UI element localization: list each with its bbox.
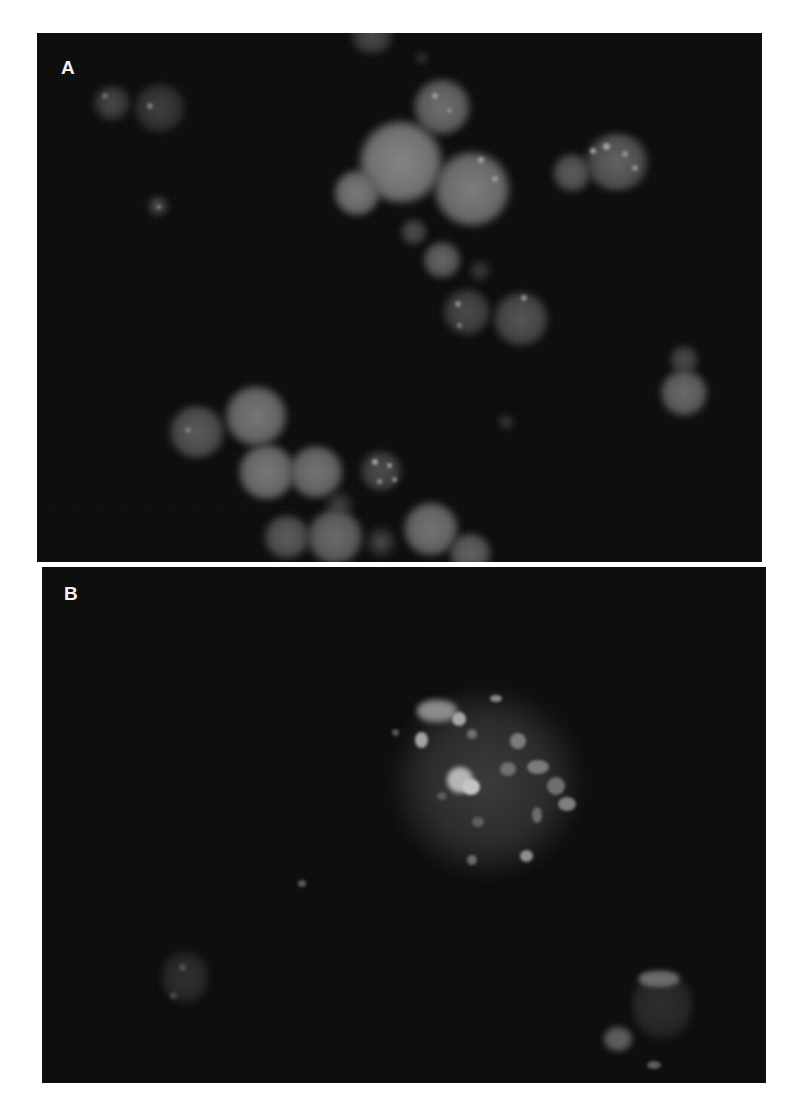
small-focus xyxy=(298,880,306,887)
cell xyxy=(432,150,512,228)
cell xyxy=(467,259,493,283)
bright-focus xyxy=(452,712,466,726)
cell xyxy=(400,219,428,245)
bright-focus xyxy=(603,143,610,150)
bright-focus xyxy=(392,729,399,736)
bright-focus xyxy=(510,733,526,749)
cell xyxy=(364,525,398,559)
cell xyxy=(497,413,515,431)
bright-focus xyxy=(455,301,461,307)
bright-focus xyxy=(467,855,477,865)
cell xyxy=(447,533,493,562)
bright-focus xyxy=(547,777,565,795)
cell xyxy=(347,33,397,53)
cell xyxy=(132,83,187,133)
cell xyxy=(659,369,709,417)
cell xyxy=(422,241,462,279)
bright-focus xyxy=(590,148,596,154)
cell xyxy=(305,509,365,562)
bright-focus xyxy=(432,93,438,99)
micrograph-panel-b: B xyxy=(42,567,766,1083)
cell xyxy=(582,133,652,191)
bright-focus xyxy=(392,477,397,482)
bright-focus xyxy=(102,93,108,99)
bright-focus xyxy=(532,807,542,823)
bright-focus xyxy=(490,695,502,702)
bright-focus xyxy=(639,971,679,987)
cell xyxy=(92,85,132,121)
cell xyxy=(162,947,208,1007)
bright-focus xyxy=(527,760,549,774)
panel-label-b: B xyxy=(64,583,78,605)
bright-focus xyxy=(437,792,447,800)
cell xyxy=(333,169,381,217)
bright-focus xyxy=(147,103,153,109)
bright-focus xyxy=(500,762,516,776)
bright-focus xyxy=(157,205,161,209)
bright-focus xyxy=(520,850,533,862)
bright-focus xyxy=(462,779,480,795)
bright-focus xyxy=(387,463,392,468)
cell xyxy=(167,405,227,459)
bright-focus xyxy=(632,165,638,171)
bright-focus xyxy=(622,151,628,157)
bright-focus xyxy=(647,1061,661,1069)
bright-focus xyxy=(492,176,498,182)
bright-focus xyxy=(472,817,484,827)
bright-focus xyxy=(521,295,527,301)
bright-focus xyxy=(447,108,452,113)
bright-focus xyxy=(478,157,484,163)
bright-focus xyxy=(457,323,462,328)
bright-focus xyxy=(185,427,191,433)
cell xyxy=(442,288,492,336)
micrograph-panel-a: A xyxy=(37,33,762,562)
bright-focus xyxy=(417,700,457,722)
bright-focus xyxy=(170,992,177,999)
bright-focus xyxy=(179,964,186,971)
panel-label-a: A xyxy=(61,57,75,79)
bright-focus xyxy=(377,479,382,484)
cell xyxy=(223,385,289,447)
bright-focus xyxy=(415,732,428,748)
bright-focus xyxy=(467,729,477,739)
bright-focus xyxy=(604,1027,632,1051)
cell xyxy=(359,450,403,492)
bright-focus xyxy=(372,459,378,465)
bright-focus xyxy=(558,797,576,811)
cell xyxy=(415,51,429,65)
